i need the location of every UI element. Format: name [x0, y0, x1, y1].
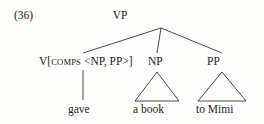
figure-canvas: (36) VP V[COMPS <NP, PP>] NP PP gave a b…	[0, 0, 264, 124]
tree-node-pp: PP	[207, 56, 220, 68]
branch-vp-to-np	[157, 28, 161, 53]
tree-terminal-a-book: a book	[133, 104, 164, 116]
triangle-np	[135, 72, 179, 101]
tree-node-v-prefix: V[	[39, 55, 51, 67]
triangle-pp	[198, 72, 246, 101]
tree-node-vp: VP	[0, 10, 252, 22]
tree-terminal-gave: gave	[68, 104, 90, 116]
branch-vp-to-v	[83, 28, 161, 53]
tree-node-np: NP	[148, 56, 163, 68]
branch-vp-to-pp	[161, 28, 222, 53]
tree-node-v: V[COMPS <NP, PP>]	[39, 56, 133, 68]
tree-node-v-suffix: <NP, PP>]	[81, 55, 133, 67]
tree-node-v-feature: COMPS	[51, 57, 81, 67]
tree-terminal-to-mimi: to Mimi	[196, 104, 233, 116]
